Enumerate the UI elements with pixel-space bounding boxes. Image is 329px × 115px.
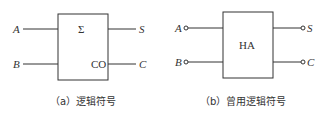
output-c-terminal-icon <box>301 60 305 64</box>
carry-out-label: CO <box>91 58 106 70</box>
diagram-a-logic-symbol: A B S C Σ CO <box>12 14 147 80</box>
output-c-label: C <box>307 56 315 68</box>
input-a-terminal-icon <box>184 26 188 30</box>
input-b-label: B <box>13 58 20 70</box>
input-a-label: A <box>12 23 20 35</box>
output-s-label: S <box>139 23 145 35</box>
caption-b: （b）曾用逻辑符号 <box>200 93 286 108</box>
input-b-label: B <box>175 56 182 68</box>
output-s-label: S <box>307 22 313 34</box>
output-s-terminal-icon <box>301 26 305 30</box>
sum-symbol: Σ <box>78 23 84 35</box>
block-label: HA <box>239 39 255 51</box>
diagram-b-legacy-symbol: A B S C HA <box>174 12 315 78</box>
input-b-terminal-icon <box>184 60 188 64</box>
caption-a: （a）逻辑符号 <box>50 93 116 108</box>
input-a-label: A <box>174 22 182 34</box>
output-c-label: C <box>139 58 147 70</box>
